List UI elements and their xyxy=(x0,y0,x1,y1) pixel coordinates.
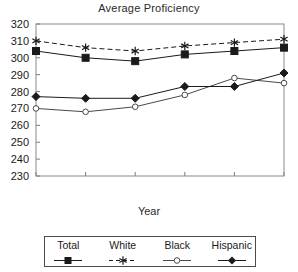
legend-label: White xyxy=(109,239,136,251)
y-tick-label: 320 xyxy=(11,18,29,30)
series-markers xyxy=(32,35,288,115)
data-point-total xyxy=(33,48,40,55)
series-line-total xyxy=(36,48,284,62)
x-tick-label: 1988 xyxy=(173,182,197,183)
plot-frame xyxy=(36,24,284,176)
series-line-white xyxy=(36,39,284,51)
data-point-hispanic xyxy=(181,82,189,90)
legend-marker-filled-diamond xyxy=(212,252,252,263)
data-point-hispanic xyxy=(32,93,40,101)
x-axis-ticks xyxy=(36,172,284,176)
plot-svg: 320310300290280270260250240230 197319781… xyxy=(0,18,298,183)
y-tick-label: 310 xyxy=(11,35,29,47)
series-line-hispanic xyxy=(36,73,284,98)
legend-entry-hispanic: Hispanic xyxy=(209,239,256,263)
data-point-total xyxy=(132,58,139,65)
y-tick-label: 300 xyxy=(11,52,29,64)
chart-container: Average Proficiency 32031030029028027026… xyxy=(0,0,298,272)
legend-label: Total xyxy=(57,239,79,251)
y-tick-label: 290 xyxy=(11,69,29,81)
x-tick-label: 1992 xyxy=(272,182,296,183)
x-tick-label: 1990 xyxy=(222,182,246,183)
x-tick-label: 1978 xyxy=(73,182,97,183)
legend-label: Hispanic xyxy=(212,239,252,251)
chart-title: Average Proficiency xyxy=(0,2,298,14)
legend-entry-black: Black xyxy=(154,239,201,263)
x-axis-label: Year xyxy=(0,205,298,217)
data-point-total xyxy=(231,48,238,55)
data-point-hispanic xyxy=(82,94,90,102)
y-axis-tick-labels: 320310300290280270260250240230 xyxy=(11,18,29,182)
y-tick-label: 230 xyxy=(11,170,29,182)
legend-entries: TotalWhiteBlackHispanic xyxy=(45,237,255,263)
data-point-black xyxy=(132,104,138,110)
data-point-white xyxy=(280,35,287,43)
data-point-hispanic xyxy=(280,69,288,77)
legend-marker-asterisk xyxy=(103,252,143,263)
data-point-total xyxy=(181,51,188,58)
x-tick-label: 1973 xyxy=(24,182,48,183)
data-point-black xyxy=(83,109,89,115)
data-point-black xyxy=(33,106,39,112)
x-tick-label: 1982 xyxy=(123,182,147,183)
y-tick-label: 270 xyxy=(11,102,29,114)
legend-marker-open-circle xyxy=(157,252,197,263)
x-axis-tick-labels: 197319781982198819901992 xyxy=(24,182,296,183)
data-point-total xyxy=(281,44,288,51)
legend-entry-white: White xyxy=(100,239,147,263)
data-point-black xyxy=(182,92,188,98)
data-point-black xyxy=(281,80,287,86)
y-tick-label: 280 xyxy=(11,86,29,98)
y-tick-label: 260 xyxy=(11,119,29,131)
legend-marker-filled-square xyxy=(48,252,88,263)
data-point-hispanic xyxy=(230,82,238,90)
data-point-hispanic xyxy=(131,94,139,102)
plot-area: 320310300290280270260250240230 197319781… xyxy=(0,18,298,183)
y-tick-label: 250 xyxy=(11,136,29,148)
chart-legend: TotalWhiteBlackHispanic xyxy=(44,236,256,267)
data-point-total xyxy=(82,54,89,61)
data-point-black xyxy=(232,75,238,81)
y-tick-label: 240 xyxy=(11,153,29,165)
legend-label: Black xyxy=(164,239,190,251)
series-lines xyxy=(36,39,284,112)
legend-entry-total: Total xyxy=(45,239,92,263)
